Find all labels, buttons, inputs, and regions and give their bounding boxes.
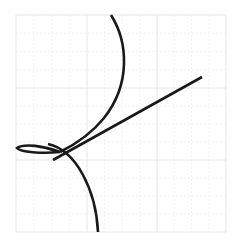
diagram-canvas [0, 0, 238, 248]
